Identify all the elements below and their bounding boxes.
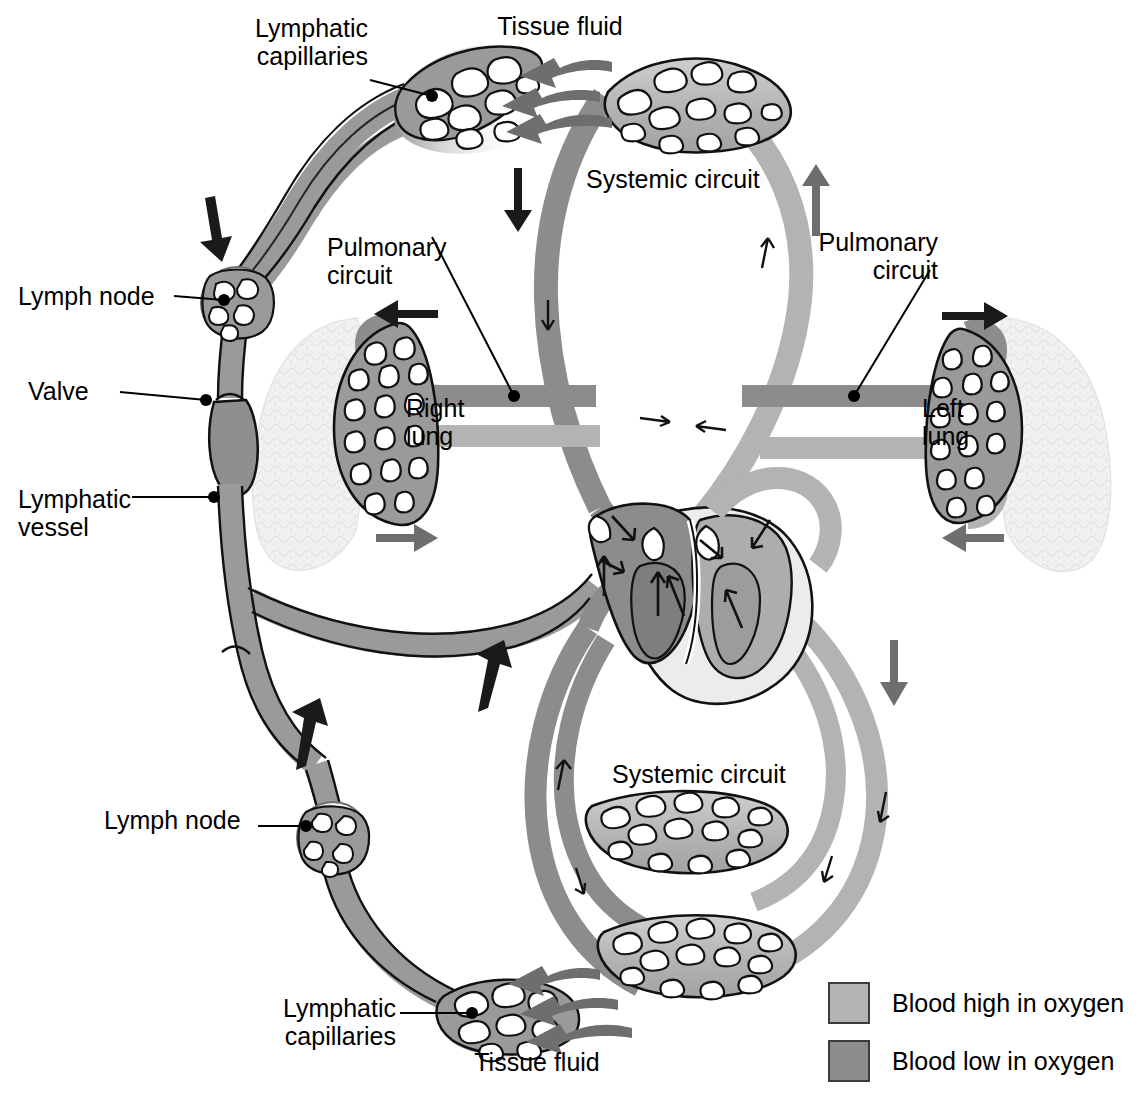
label-systemic-circuit-bottom: Systemic circuit	[612, 760, 786, 788]
label-lymphatic-capillaries-top: Lymphatic capillaries	[150, 14, 368, 70]
systemic-capillary-bed-upper	[605, 59, 791, 154]
lymphatic-system	[201, 44, 596, 1061]
systemic-capillary-bed-mid	[586, 791, 788, 873]
diagram-canvas: Lymphatic capillaries Tissue fluid Syste…	[0, 0, 1146, 1110]
label-lymph-node-lower: Lymph node	[104, 806, 241, 834]
label-tissue-fluid-bottom: Tissue fluid	[432, 1048, 642, 1076]
oxygen-high-swatch	[828, 982, 870, 1024]
label-pulmonary-circuit-right: Pulmonary circuit	[760, 228, 938, 284]
lymph-node-lower	[297, 802, 369, 877]
label-pulmonary-circuit-left: Pulmonary circuit	[327, 233, 447, 289]
legend-label-oxygen-low: Blood low in oxygen	[892, 1047, 1114, 1076]
legend-item-oxygen-high: Blood high in oxygen	[828, 982, 1124, 1024]
lymph-node-upper	[201, 267, 274, 341]
label-systemic-circuit-top: Systemic circuit	[586, 165, 760, 193]
label-valve: Valve	[28, 377, 89, 405]
oxygen-low-swatch	[828, 1040, 870, 1082]
legend-item-oxygen-low: Blood low in oxygen	[828, 1040, 1114, 1082]
label-lymphatic-capillaries-bottom: Lymphatic capillaries	[178, 994, 396, 1050]
legend-label-oxygen-high: Blood high in oxygen	[892, 989, 1124, 1018]
label-lymphatic-vessel: Lymphatic vessel	[18, 485, 131, 541]
label-tissue-fluid-top: Tissue fluid	[455, 12, 665, 40]
label-lymph-node-upper: Lymph node	[18, 282, 155, 310]
label-right-lung: Right lung	[406, 394, 464, 450]
diagram-svg	[0, 0, 1146, 1110]
label-left-lung: Left lung	[922, 394, 969, 450]
